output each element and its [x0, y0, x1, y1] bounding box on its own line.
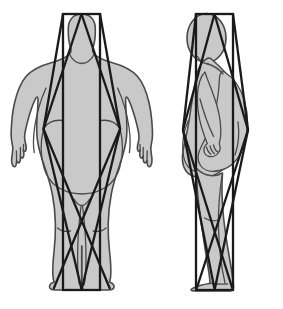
body-proportion-diagram: [0, 0, 283, 309]
